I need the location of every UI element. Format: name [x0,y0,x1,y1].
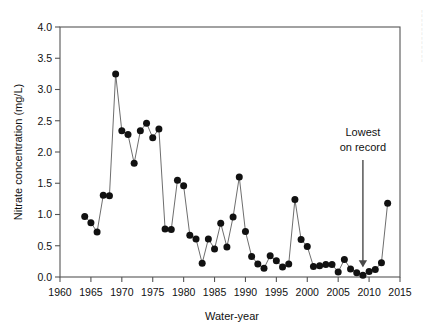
data-point [347,265,354,272]
data-point [211,245,218,252]
data-point [310,263,317,270]
data-point [261,265,268,272]
data-point [149,134,156,141]
x-tick-label: 1985 [203,286,227,298]
x-tick-label: 1970 [110,286,134,298]
x-tick-label: 1995 [265,286,289,298]
y-tick-label: 3.5 [37,52,52,64]
data-point [180,182,187,189]
data-point [359,272,366,279]
x-tick-label: 1990 [234,286,258,298]
y-axis-title: Nitrate concentration (mg/L) [12,84,24,220]
data-point [291,196,298,203]
data-point [254,260,261,267]
data-point [366,268,373,275]
data-point [285,260,292,267]
y-tick-label: 0.5 [37,240,52,252]
data-point [341,256,348,263]
data-point [372,266,379,273]
data-point [162,225,169,232]
data-point [279,264,286,271]
annotation-text-line1: Lowest [345,126,380,138]
data-point [106,192,113,199]
data-point [137,127,144,134]
data-point [273,257,280,264]
data-point [87,219,94,226]
data-point [248,253,255,260]
x-tick-label: 1975 [141,286,165,298]
data-point [112,70,119,77]
data-point [118,127,125,134]
annotation-text-line2: on record [340,141,386,153]
x-tick-label: 2005 [327,286,351,298]
y-tick-label: 3.0 [37,83,52,95]
x-tick-label: 2015 [388,286,412,298]
x-tick-label: 1980 [172,286,196,298]
y-tick-label: 4.0 [37,21,52,33]
x-tick-label: 1960 [48,286,72,298]
y-tick-label: 1.5 [37,177,52,189]
data-point [316,262,323,269]
y-tick-label: 0.0 [37,271,52,283]
y-tick-label: 2.5 [37,115,52,127]
data-point [81,213,88,220]
data-point [174,177,181,184]
data-point [329,261,336,268]
data-point [186,232,193,239]
data-point [155,125,162,132]
data-point [353,269,360,276]
data-point [236,174,243,181]
y-tick-label: 1.0 [37,208,52,220]
data-point [143,120,150,127]
data-point [298,236,305,243]
data-point [131,160,138,167]
nitrate-concentration-figure: ¦¦¦¦¦¦ 0.00.51.01.52.02.53.03.54.0 19601… [0,0,435,335]
data-point [267,252,274,259]
data-point [193,235,200,242]
data-point [304,243,311,250]
x-tick-label: 2000 [296,286,320,298]
data-point [322,261,329,268]
data-point [378,259,385,266]
chart-canvas: 0.00.51.01.52.02.53.03.54.0 196019651970… [0,0,435,335]
y-axis-ticks: 0.00.51.01.52.02.53.03.54.0 [37,21,60,283]
data-point [168,226,175,233]
data-point [94,229,101,236]
data-point [217,220,224,227]
x-tick-label: 2010 [357,286,381,298]
data-point [335,269,342,276]
data-point [125,131,132,138]
data-point [230,214,237,221]
x-axis-title: Water-year [205,310,259,322]
data-point [384,200,391,207]
data-point [100,192,107,199]
x-tick-label: 1965 [79,286,103,298]
data-point [199,260,206,267]
data-point [223,244,230,251]
data-point [205,235,212,242]
data-point [242,228,249,235]
y-tick-label: 2.0 [37,146,52,158]
x-axis-ticks: 1960196519701975198019851990199520002005… [48,277,412,298]
